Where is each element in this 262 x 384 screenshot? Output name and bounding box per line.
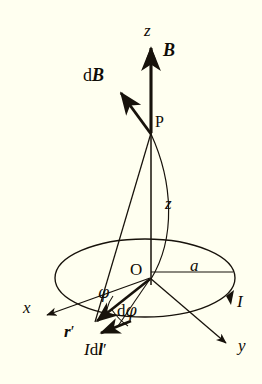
z-axis-label: z — [144, 22, 151, 39]
Idl-element-arrow — [101, 321, 131, 333]
dphi-angle-label: dφ — [117, 302, 137, 319]
x-axis-label: x — [23, 299, 31, 316]
origin-O-label: O — [130, 261, 142, 278]
radius-a-label: a — [190, 257, 199, 274]
y-axis-line — [150, 278, 226, 343]
Idl-label-d: d — [90, 340, 99, 359]
dB-label-d: d — [83, 65, 92, 85]
r-label-prime: ′ — [71, 322, 75, 341]
dB-vector-label: dB — [83, 66, 104, 84]
point-P-label: P — [155, 114, 164, 130]
r-vector-label: r′ — [64, 323, 74, 340]
dB-label-B: B — [92, 65, 104, 85]
figure-canvas: z B dB P z O a I x y φ dφ r′ Idl′ — [0, 0, 262, 384]
B-vector-label: B — [163, 41, 175, 59]
physics-diagram-svg — [0, 0, 262, 384]
height-z-label: z — [165, 195, 172, 212]
phi-angle-label: φ — [98, 285, 109, 301]
current-direction-arrowhead — [226, 290, 234, 305]
current-I-label: I — [237, 293, 243, 310]
y-axis-label: y — [238, 337, 246, 354]
Idl-element-label: Idl′ — [84, 341, 107, 358]
dphi-label-phi: φ — [126, 301, 137, 320]
r-label-r: r — [64, 322, 71, 341]
Idl-label-prime: ′ — [103, 340, 107, 359]
dB-vector-arrow — [121, 93, 151, 134]
current-loop-ellipse — [55, 239, 235, 317]
dphi-label-d: d — [117, 301, 126, 320]
